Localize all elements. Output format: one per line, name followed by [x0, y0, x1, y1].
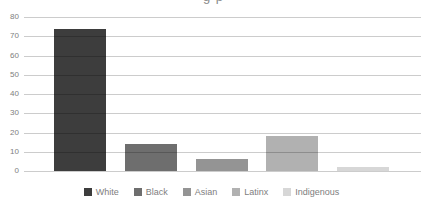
legend-label: Black — [146, 188, 168, 197]
bar-latinx — [266, 136, 318, 171]
legend-swatch-icon — [283, 188, 291, 196]
y-axis-tick-label: 70 — [0, 32, 19, 40]
gridline-y60 — [24, 56, 421, 57]
gridline-y50 — [24, 75, 421, 76]
legend-item-black: Black — [134, 188, 168, 197]
chart-legend: WhiteBlackAsianLatinxIndigenous — [0, 185, 423, 199]
gridline-y0 — [24, 171, 421, 172]
gridline-y70 — [24, 36, 421, 37]
y-axis-tick-label: 20 — [0, 129, 19, 137]
gridline-y20 — [24, 133, 421, 134]
legend-label: Indigenous — [295, 188, 339, 197]
gridline-y80 — [24, 17, 421, 18]
legend-swatch-icon — [84, 188, 92, 196]
bar-white — [54, 29, 106, 171]
legend-label: White — [96, 188, 119, 197]
y-axis-tick-label: 10 — [0, 148, 19, 156]
gridline-y40 — [24, 94, 421, 95]
legend-swatch-icon — [183, 188, 191, 196]
bar-chart: g p 01020304050607080 WhiteBlackAsianLat… — [0, 0, 423, 208]
y-axis-tick-label: 60 — [0, 52, 19, 60]
y-axis-tick-label: 40 — [0, 90, 19, 98]
legend-label: Asian — [195, 188, 218, 197]
legend-label: Latinx — [244, 188, 268, 197]
legend-swatch-icon — [134, 188, 142, 196]
legend-item-asian: Asian — [183, 188, 218, 197]
y-axis-tick-label: 30 — [0, 109, 19, 117]
legend-item-latinx: Latinx — [232, 188, 268, 197]
bar-black — [125, 144, 177, 171]
y-axis-tick-label: 50 — [0, 71, 19, 79]
legend-item-indigenous: Indigenous — [283, 188, 339, 197]
chart-title-text: g p — [203, 0, 224, 4]
bar-asian — [196, 159, 248, 171]
legend-item-white: White — [84, 188, 119, 197]
gridline-y10 — [24, 152, 421, 153]
y-axis-tick-label: 80 — [0, 13, 19, 21]
chart-title-cropped: g p — [0, 0, 423, 4]
gridline-y30 — [24, 113, 421, 114]
legend-swatch-icon — [232, 188, 240, 196]
y-axis-tick-label: 0 — [0, 167, 19, 175]
